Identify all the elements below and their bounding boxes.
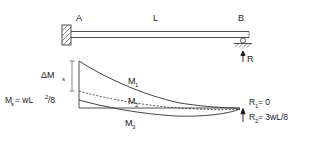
svg-text:2: 2 [135, 102, 139, 108]
svg-text:ΔM: ΔM [41, 70, 55, 80]
delta-moment-bracket [70, 61, 75, 91]
fixed-support-icon [62, 25, 71, 45]
reaction-arrow-r2 [241, 109, 245, 123]
label-support-a: A [76, 13, 82, 23]
label-curve-m2: M 2 [128, 96, 139, 108]
beam-member [71, 32, 249, 38]
svg-text:/8: /8 [48, 95, 55, 105]
beam-moment-diagram: A L B R [0, 0, 311, 145]
figure-container: A L B R [0, 0, 311, 145]
svg-text:= wL: = wL [15, 95, 33, 105]
svg-text:= 0: = 0 [258, 97, 270, 107]
label-span-length: L [153, 13, 158, 23]
label-reaction-r: R [247, 54, 254, 64]
label-reaction-r2: R 2 = 3wL/8 [249, 112, 288, 124]
label-curve-m1: M 1 [128, 76, 139, 88]
label-support-b: B [238, 13, 244, 23]
label-reaction-r1: R 1 = 0 [249, 97, 270, 109]
moment-curve-m1 [79, 61, 240, 108]
svg-text:3: 3 [132, 124, 136, 130]
label-curve-m3: M 3 [125, 118, 136, 130]
svg-text:= 3wL/8: = 3wL/8 [258, 112, 288, 122]
label-static-moment-equation: M s = wL 2 /8 [5, 94, 55, 107]
svg-text:1: 1 [135, 82, 139, 88]
moment-diagram-group: M 1 M 2 M 3 ΔM s M s = wL 2 /8 [5, 61, 288, 130]
beam-group: A L B R [62, 13, 254, 64]
svg-text:s: s [11, 101, 14, 107]
roller-support-icon [234, 38, 252, 48]
reaction-arrow-r [241, 51, 245, 62]
svg-text:s: s [62, 76, 65, 82]
label-delta-moment: ΔM s [41, 70, 65, 82]
